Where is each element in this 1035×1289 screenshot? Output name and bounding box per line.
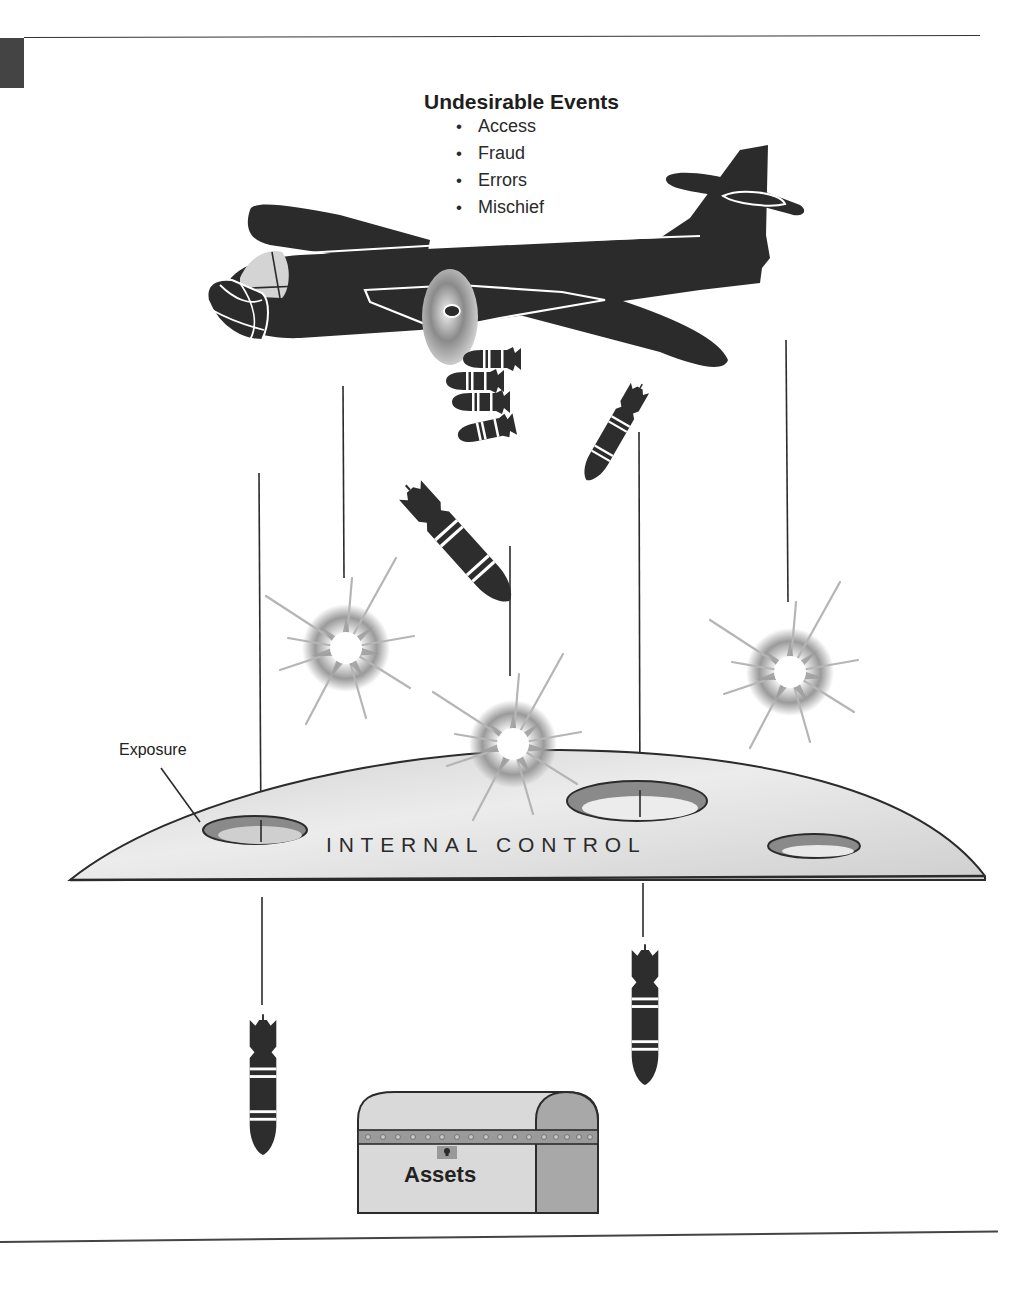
exposure-hole-right	[768, 834, 860, 858]
falling-bomb-diagonal-left	[395, 475, 521, 610]
bomber-airplane	[207, 145, 804, 367]
exposure-hole-left	[203, 816, 307, 844]
assets-label: Assets	[404, 1162, 476, 1188]
internal-control-label: INTERNAL CONTROL	[326, 833, 646, 857]
internal-control-illustration	[0, 0, 1035, 1289]
falling-bomb-diagonal-right	[578, 379, 652, 486]
exposure-label: Exposure	[119, 741, 187, 759]
assets-treasure-chest	[358, 1092, 598, 1213]
bomb-through-exposure-left	[250, 1014, 277, 1155]
explosion-left	[266, 558, 414, 724]
bomb-through-exposure-center	[632, 944, 659, 1085]
exposure-hole-center	[567, 781, 707, 821]
explosion-right	[710, 582, 858, 748]
